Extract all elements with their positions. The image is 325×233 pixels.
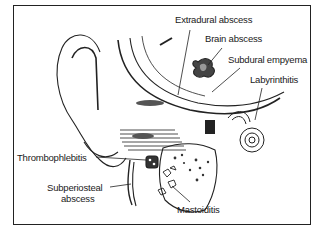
label-subdural-empyema: Subdural empyema <box>228 55 307 65</box>
label-extradural-abscess: Extradural abscess <box>175 15 252 25</box>
label-abscess: abscess <box>61 194 94 204</box>
mastoid-bone <box>159 144 216 212</box>
auricle <box>57 35 126 167</box>
label-mastoiditis: Mastoiditis <box>177 205 220 215</box>
label-thrombophlebitis: Thrombophlebitis <box>17 153 87 163</box>
label-brain-abscess: Brain abscess <box>205 34 262 44</box>
label-labyrinthitis: Labyrinthitis <box>250 75 298 85</box>
thrombophlebitis-shape <box>146 156 158 168</box>
label-subperiosteal: Subperiosteal <box>47 183 103 193</box>
ear-anatomy-illustration <box>0 0 325 233</box>
cochlea <box>228 112 264 152</box>
